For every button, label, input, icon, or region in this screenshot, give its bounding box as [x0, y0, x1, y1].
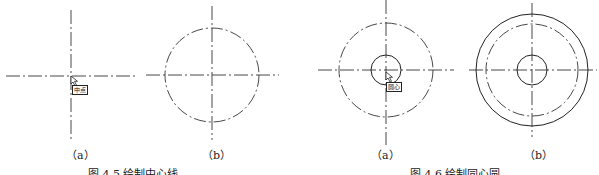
cursor-arrow-icon	[386, 72, 393, 82]
panel-label: （a）	[371, 146, 400, 162]
fig-4-5-a	[6, 10, 136, 140]
figure-caption: 图 4.6 绘制同心圆	[410, 165, 501, 175]
fig-4-6-b	[469, 3, 597, 137]
snap-tooltip: 中点	[72, 85, 88, 95]
panel-label: （b）	[524, 146, 553, 162]
fig-4-6-a	[318, 0, 454, 145]
fig-4-5-b	[146, 6, 279, 140]
panel-label: （b）	[202, 146, 231, 162]
figure-caption: 图 4.5 绘制中心线	[88, 165, 179, 175]
snap-tooltip: 圆心	[386, 82, 402, 92]
panel-label: （a）	[66, 146, 95, 162]
